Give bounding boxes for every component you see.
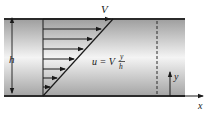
y-axis-label: y [173,71,179,82]
couette-flow-diagram: h V u = V y h y x [0,0,207,117]
formula-lhs: u = V [92,56,117,67]
x-axis-label: x [197,100,203,111]
formula-numerator: y [119,52,124,61]
height-label: h [9,53,15,65]
formula-denominator: h [119,62,123,71]
plate-velocity-label: V [101,3,109,15]
